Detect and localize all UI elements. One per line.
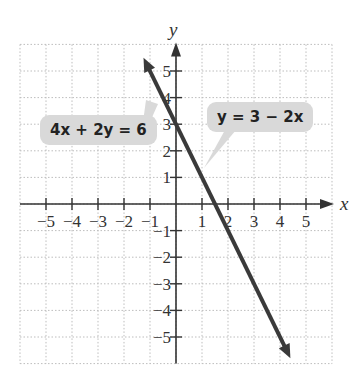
y-tick-label: 3	[163, 115, 172, 134]
x-tick-label: −2	[115, 212, 133, 231]
x-tick-label: 3	[250, 212, 259, 231]
x-tick-label: 5	[302, 212, 311, 231]
y-tick-label: −5	[153, 328, 171, 347]
x-tick-label: 4	[276, 212, 285, 231]
y-tick-label: −2	[153, 248, 171, 267]
y-tick-label: 2	[163, 142, 172, 161]
y-tick-label: 5	[163, 62, 172, 81]
x-tick-label: 1	[198, 212, 207, 231]
callout-slope-intercept-form: y = 3 − 2x	[207, 102, 313, 132]
y-axis-label: y	[167, 19, 178, 40]
callout-standard-form: 4x + 2y = 6	[40, 115, 157, 145]
x-axis-arrow-icon	[320, 199, 334, 209]
y-tick-label: −1	[153, 222, 171, 241]
x-tick-label: −3	[89, 212, 107, 231]
x-tick-label: −5	[37, 212, 55, 231]
y-tick-label: −3	[153, 275, 171, 294]
y-axis-arrow-icon	[171, 42, 181, 56]
y-tick-label: −4	[153, 301, 172, 320]
callout-right-pointer	[204, 130, 236, 168]
chart-canvas: −5−4−3−2−11234554321−1−2−3−4−5 x y	[0, 0, 364, 383]
x-axis-label: x	[339, 193, 349, 214]
axes	[20, 42, 334, 363]
x-tick-label: −4	[63, 212, 82, 231]
y-tick-label: 1	[163, 168, 172, 187]
